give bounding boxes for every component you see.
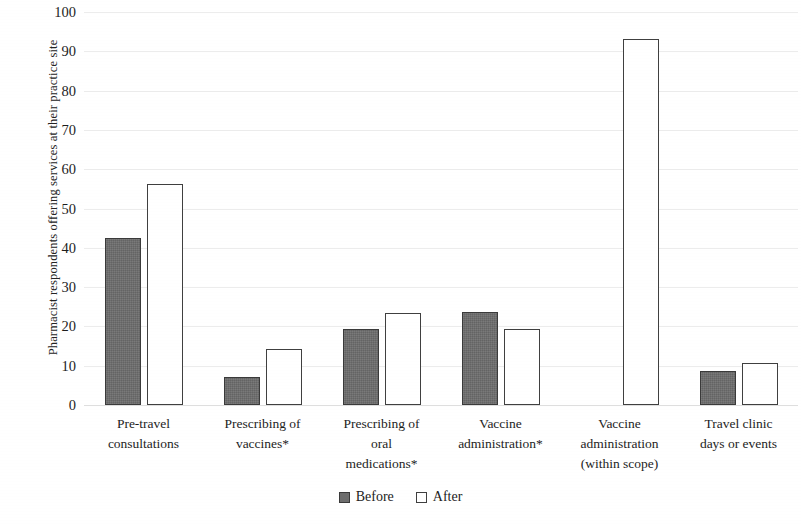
bar-group — [322, 12, 441, 405]
plot-area — [84, 12, 798, 405]
bar-series-container — [84, 12, 798, 405]
category-label-line: consultations — [84, 434, 203, 454]
bar-after — [385, 313, 421, 405]
gridline — [84, 405, 798, 406]
bar-before — [700, 371, 736, 405]
y-axis-tick-label: 50 — [30, 202, 76, 217]
bar-group — [679, 12, 798, 405]
y-axis-tick-label: 90 — [30, 44, 76, 59]
legend-label: After — [433, 489, 463, 505]
y-axis-tick-label: 100 — [30, 5, 76, 20]
bar-chart-figure: Pharmacist respondents offering services… — [0, 0, 801, 524]
legend-label: Before — [356, 489, 394, 505]
category-label-line: Vaccine — [560, 414, 679, 434]
x-axis-category-label: Prescribing oforalmedications* — [322, 414, 441, 474]
y-axis-tick-label: 0 — [30, 398, 76, 413]
category-label-line: oral — [322, 434, 441, 454]
bar-before — [224, 377, 260, 405]
y-axis-tick-label: 80 — [30, 84, 76, 99]
category-label-line: Vaccine — [441, 414, 560, 434]
legend-item-after[interactable]: After — [416, 489, 463, 505]
bar-after — [147, 184, 183, 405]
bar-after — [623, 39, 659, 405]
y-axis-tick-label: 10 — [30, 359, 76, 374]
bar-after — [742, 363, 778, 405]
category-label-line: administration — [560, 434, 679, 454]
x-axis-category-label: Travel clinicdays or events — [679, 414, 798, 454]
x-axis-category-label: Prescribing ofvaccines* — [203, 414, 322, 454]
y-axis-tick-label: 60 — [30, 162, 76, 177]
category-label-line: medications* — [322, 454, 441, 474]
legend-swatch-icon — [416, 492, 427, 503]
bar-before — [105, 238, 141, 405]
x-axis-category-label: Vaccineadministration(within scope) — [560, 414, 679, 474]
x-axis-category-label: Pre-travelconsultations — [84, 414, 203, 454]
x-axis-category-label: Vaccineadministration* — [441, 414, 560, 454]
bar-before — [343, 329, 379, 405]
y-axis-tick-label: 70 — [30, 123, 76, 138]
category-label-line: Travel clinic — [679, 414, 798, 434]
bar-group — [441, 12, 560, 405]
category-label-line: vaccines* — [203, 434, 322, 454]
legend-item-before[interactable]: Before — [339, 489, 394, 505]
bar-group — [203, 12, 322, 405]
bar-after — [266, 349, 302, 405]
y-axis-tick-label: 40 — [30, 241, 76, 256]
x-axis-category-labels: Pre-travelconsultationsPrescribing ofvac… — [84, 414, 798, 486]
bar-group — [84, 12, 203, 405]
category-label-line: Prescribing of — [322, 414, 441, 434]
category-label-line: Pre-travel — [84, 414, 203, 434]
bar-after — [504, 329, 540, 405]
chart-legend: BeforeAfter — [0, 489, 801, 505]
y-axis-tick-label: 30 — [30, 280, 76, 295]
category-label-line: days or events — [679, 434, 798, 454]
category-label-line: (within scope) — [560, 454, 679, 474]
category-label-line: Prescribing of — [203, 414, 322, 434]
bar-group — [560, 12, 679, 405]
y-axis-tick-label: 20 — [30, 319, 76, 334]
category-label-line: administration* — [441, 434, 560, 454]
bar-before — [462, 312, 498, 405]
legend-swatch-icon — [339, 492, 350, 503]
